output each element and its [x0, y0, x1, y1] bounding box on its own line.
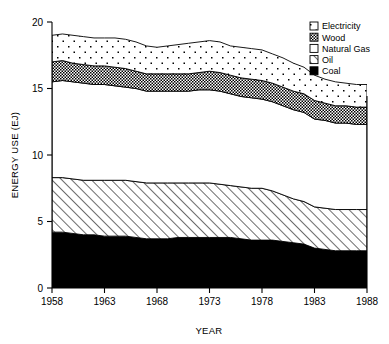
legend-label-natural-gas: Natural Gas	[322, 44, 371, 54]
legend-label-electricity: Electricity	[322, 21, 361, 31]
x-tick-label: 1973	[198, 296, 221, 307]
x-tick-label: 1988	[356, 296, 379, 307]
y-tick-label: 15	[32, 83, 44, 94]
legend-swatch-coal	[310, 67, 318, 75]
x-tick-label: 1968	[146, 296, 169, 307]
y-axis-label: ENERGY USE (EJ)	[9, 112, 20, 199]
legend-label-wood: Wood	[322, 33, 345, 43]
energy-use-stacked-area-chart: 05101520 1958196319681973197819831988 EN…	[0, 0, 389, 344]
legend-swatch-oil	[310, 56, 318, 64]
legend-swatch-electricity	[310, 22, 318, 30]
y-tick-label: 10	[32, 150, 44, 161]
chart-canvas: 05101520 1958196319681973197819831988 EN…	[0, 0, 389, 344]
x-tick-label: 1963	[93, 296, 116, 307]
legend-label-coal: Coal	[322, 66, 341, 76]
y-tick-label: 0	[37, 283, 43, 294]
x-tick-label: 1978	[251, 296, 274, 307]
legend-swatch-wood	[310, 33, 318, 41]
y-tick-label: 20	[32, 17, 44, 28]
x-axis-label: YEAR	[195, 325, 222, 336]
legend-swatch-natural-gas	[310, 44, 318, 52]
x-tick-label: 1983	[303, 296, 326, 307]
y-tick-label: 5	[37, 216, 43, 227]
legend-label-oil: Oil	[322, 55, 333, 65]
x-tick-label: 1958	[41, 296, 64, 307]
